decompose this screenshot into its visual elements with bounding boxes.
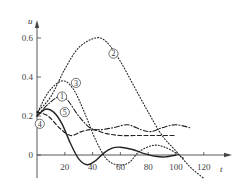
x-axis-title: t (220, 164, 223, 174)
curve-label: 3 (74, 79, 78, 88)
axes: ut00.20.40.620406080100120 (22, 16, 232, 178)
x-tick-label: 80 (144, 162, 154, 172)
line-chart: ut00.20.40.620406080100120 12345 (0, 0, 246, 182)
curve-label: 4 (38, 120, 42, 129)
x-tick-label: 120 (197, 162, 211, 172)
x-tick-label: 20 (60, 162, 70, 172)
y-tick-label: 0.6 (22, 33, 34, 43)
curve-labels: 12345 (35, 49, 118, 129)
x-tick-label: 40 (88, 162, 98, 172)
y-tick-label: 0.2 (22, 111, 33, 121)
series-line (37, 96, 190, 131)
y-tick-label: 0.4 (22, 72, 34, 82)
curve-label: 5 (63, 108, 67, 117)
y-axis-title: u (28, 16, 33, 26)
curve-label: 1 (60, 92, 64, 101)
y-tick-label: 0 (29, 150, 34, 160)
y-axis-arrow-icon (35, 20, 39, 28)
x-tick-label: 60 (116, 162, 126, 172)
curve-label: 2 (111, 49, 115, 58)
x-axis-arrow-icon (224, 153, 232, 157)
series-line (37, 109, 176, 165)
x-tick-label: 100 (169, 162, 183, 172)
